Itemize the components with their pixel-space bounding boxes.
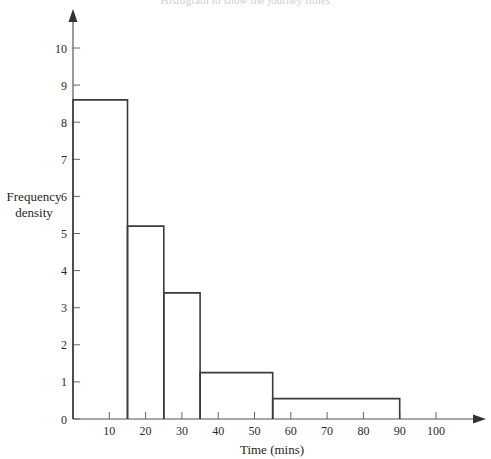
x-tick-label-50: 50: [249, 424, 261, 438]
y-tick-label-4: 4: [61, 264, 67, 278]
y-tick-label-5: 5: [61, 227, 67, 241]
bar-bin-0-15: [73, 100, 128, 419]
bar-bin-25-35: [164, 293, 200, 419]
x-axis-tick-labels: 10 20 30 40 50 60 70 80 90 100: [103, 424, 445, 438]
x-tick-label-20: 20: [140, 424, 152, 438]
y-tick-label-7: 7: [61, 153, 67, 167]
y-axis-arrow-icon: [69, 9, 78, 22]
x-tick-label-40: 40: [212, 424, 224, 438]
histogram-figure: Histogram to show the journey times 0 1 …: [0, 0, 491, 459]
y-tick-label-10: 10: [55, 42, 67, 56]
x-axis-title: Time (mins): [240, 442, 304, 457]
y-tick-label-3: 3: [61, 301, 67, 315]
bar-bin-15-25: [128, 226, 164, 419]
y-tick-label-1: 1: [61, 375, 67, 389]
y-axis-ticks: [73, 48, 80, 419]
y-tick-label-9: 9: [61, 79, 67, 93]
y-tick-label-2: 2: [61, 338, 67, 352]
x-tick-label-60: 60: [285, 424, 297, 438]
y-tick-label-8: 8: [61, 116, 67, 130]
bar-bin-55-90: [273, 399, 400, 419]
y-tick-label-6: 6: [61, 190, 67, 204]
histogram-bars: [73, 100, 400, 419]
x-tick-label-10: 10: [103, 424, 115, 438]
histogram-plot: 0 1 2 3 4 5 6 7 8 9 10 10: [0, 0, 491, 459]
y-tick-label-0: 0: [61, 413, 67, 427]
x-tick-label-90: 90: [394, 424, 406, 438]
x-tick-label-70: 70: [321, 424, 333, 438]
x-tick-label-30: 30: [176, 424, 188, 438]
y-axis-title-line1: Frequency: [7, 189, 62, 204]
y-axis-title-line2: density: [15, 205, 53, 220]
x-tick-label-80: 80: [357, 424, 369, 438]
y-axis-tick-labels: 0 1 2 3 4 5 6 7 8 9 10: [55, 42, 67, 427]
x-tick-label-100: 100: [427, 424, 445, 438]
x-axis-arrow-icon: [473, 415, 486, 424]
bar-bin-35-55: [200, 373, 273, 419]
